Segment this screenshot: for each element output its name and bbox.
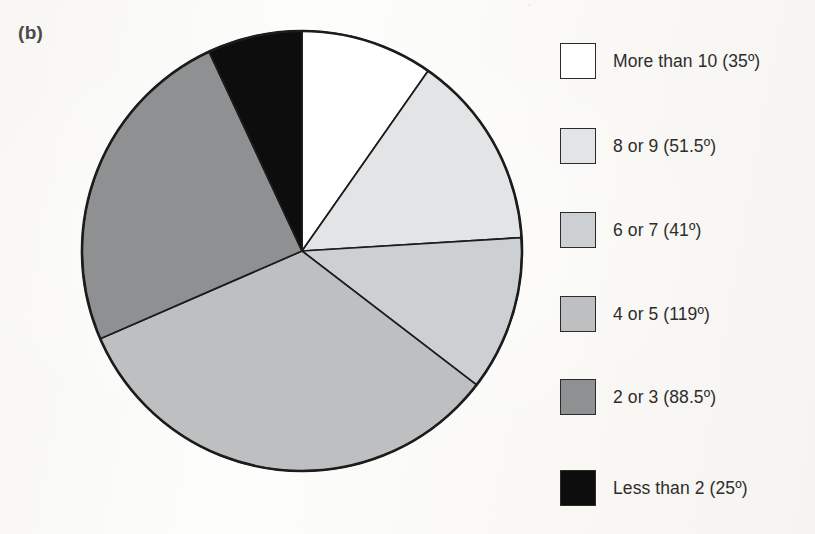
legend-swatch — [560, 212, 596, 248]
legend-item: Less than 2 (25º) — [560, 470, 748, 506]
figure-page: (b) More than 10 (35º)8 or 9 (51.5º)6 or… — [0, 0, 815, 534]
legend-swatch — [560, 296, 596, 332]
legend-label: 2 or 3 (88.5º) — [613, 387, 716, 408]
legend-item: 6 or 7 (41º) — [560, 212, 701, 248]
legend-item: More than 10 (35º) — [560, 43, 760, 79]
pie-chart-svg — [0, 0, 560, 534]
legend-label: Less than 2 (25º) — [613, 478, 748, 499]
chart-legend: More than 10 (35º)8 or 9 (51.5º)6 or 7 (… — [560, 0, 815, 534]
legend-item: 4 or 5 (119º) — [560, 296, 710, 332]
legend-swatch — [560, 128, 596, 164]
legend-label: 4 or 5 (119º) — [613, 304, 710, 325]
pie-chart — [0, 0, 560, 534]
page-gutter-rule — [529, 4, 530, 294]
legend-label: More than 10 (35º) — [613, 51, 760, 72]
legend-item: 2 or 3 (88.5º) — [560, 379, 716, 415]
legend-swatch — [560, 470, 596, 506]
legend-label: 6 or 7 (41º) — [613, 220, 701, 241]
legend-swatch — [560, 379, 596, 415]
legend-swatch — [560, 43, 596, 79]
pie-slice-group — [82, 31, 522, 471]
legend-label: 8 or 9 (51.5º) — [613, 136, 716, 157]
legend-item: 8 or 9 (51.5º) — [560, 128, 716, 164]
